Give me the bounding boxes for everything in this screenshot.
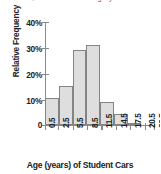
x-axis-title: Age (years) of Student Cars [0,160,160,170]
x-tick-label-2.5: 2.5 [62,118,71,128]
y-tick-label-30: 30% [26,44,42,54]
x-tick-label-11.5: 11.5 [105,114,114,128]
x-tick-label-group: 0.5 2.5 5.5 8.5 11.5 14.5 17.5 20.5 23.5 [45,128,160,158]
plot-area [45,22,155,126]
y-tick-label-40: 40% [26,18,42,28]
y-tick-mark-20 [42,74,49,75]
y-tick-mark-40 [42,22,49,23]
y-tick-label-group: 40% 30% 20% 10% 0 [16,0,42,174]
x-tick-label-14.5: 14.5 [120,114,129,128]
y-tick-mark-30 [42,48,49,49]
x-tick-label-0.5: 0.5 [48,118,57,128]
y-tick-label-10: 10% [26,96,42,106]
x-tick-label-17.5: 17.5 [134,114,143,128]
x-tick-label-23.5: 23.5 [158,114,161,128]
x-tick-label-8.5: 8.5 [91,118,100,128]
x-tick-label-5.5: 5.5 [76,118,85,128]
histogram-bar [86,45,100,125]
histogram-figure: for, so most cars are slightly newer. Re… [0,0,160,174]
histogram-bar [73,50,87,124]
x-tick-label-20.5: 20.5 [148,114,157,128]
y-tick-label-20: 20% [26,70,42,80]
